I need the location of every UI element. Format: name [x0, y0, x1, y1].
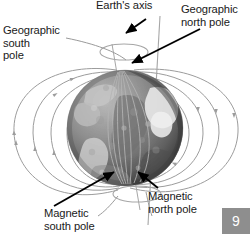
leader-mag-south — [98, 196, 118, 216]
label-geographic-north-pole: Geographic north pole — [181, 3, 238, 28]
leader-geo-south — [66, 38, 126, 60]
label-earths-axis: Earth's axis — [96, 0, 152, 12]
label-geographic-south-pole: Geographic south pole — [3, 24, 60, 62]
page-number-badge: 9 — [222, 208, 250, 234]
label-magnetic-south-pole: Magnetic south pole — [44, 207, 95, 232]
arrow-magnetic-south-pole — [54, 172, 114, 206]
earth-magnetic-field-figure: Earth's axis Geographic north pole Geogr… — [0, 0, 252, 236]
earth-globe — [67, 70, 183, 197]
arrow-geographic-north-pole — [132, 29, 200, 63]
arrow-earths-axis — [126, 19, 146, 33]
label-magnetic-north-pole: Magnetic north pole — [148, 190, 197, 215]
